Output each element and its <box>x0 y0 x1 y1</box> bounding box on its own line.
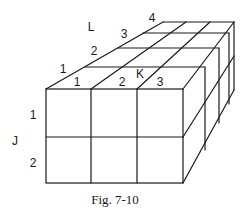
k-tick-1: 1 <box>74 76 81 88</box>
right-face <box>183 22 234 183</box>
axis-label-l: L <box>88 21 95 33</box>
axis-label-j: J <box>12 135 18 147</box>
figure-caption: Fig. 7-10 <box>91 192 139 208</box>
j-tick-2: 2 <box>30 157 37 169</box>
l-tick-3: 3 <box>121 28 128 40</box>
l-tick-1: 1 <box>60 63 67 75</box>
k-tick-3: 3 <box>157 76 164 88</box>
l-tick-2: 2 <box>91 45 98 57</box>
k-tick-2: 2 <box>119 76 126 88</box>
front-face <box>46 89 183 183</box>
l-tick-4: 4 <box>149 12 156 24</box>
axis-label-k: K <box>136 68 144 80</box>
j-tick-1: 1 <box>30 109 37 121</box>
